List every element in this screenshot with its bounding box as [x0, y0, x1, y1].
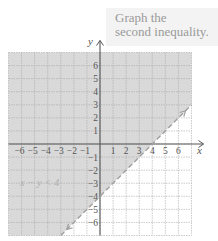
y-tick-label: −1	[88, 153, 98, 163]
inequality-label: x − y < 4	[19, 177, 60, 188]
y-tick-label: 2	[93, 113, 98, 123]
y-tick-label: 5	[93, 74, 98, 84]
x-tick-label: −3	[54, 146, 64, 156]
x-tick-label: 1	[111, 146, 116, 156]
y-tick-label: −2	[88, 166, 98, 176]
x-axis-label: x	[196, 144, 202, 156]
y-tick-label: −3	[88, 179, 98, 189]
y-tick-label: 1	[93, 126, 98, 136]
y-tick-label: 4	[93, 87, 98, 97]
x-tick-label: −2	[67, 146, 77, 156]
y-tick-label: 6	[93, 61, 98, 71]
y-tick-label: −6	[88, 218, 98, 228]
x-tick-label: −6	[15, 146, 25, 156]
x-tick-label: 6	[176, 146, 181, 156]
x-tick-label: 4	[150, 146, 155, 156]
coordinate-plane: −6−5−4−3−2−1123456−6−5−4−3−2−1123456 x y…	[0, 0, 218, 241]
x-tick-label: 5	[163, 146, 168, 156]
x-tick-label: 2	[124, 146, 129, 156]
y-axis-label: y	[87, 35, 93, 47]
x-tick-label: −4	[41, 146, 51, 156]
x-tick-label: −5	[28, 146, 38, 156]
y-tick-label: 3	[93, 100, 98, 110]
